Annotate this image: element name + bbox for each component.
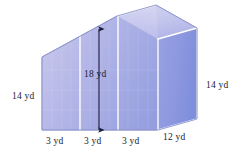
label-depth: 12 yd [163, 132, 185, 142]
house-prism-diagram [0, 0, 248, 157]
label-base-segment-2: 3 yd [84, 136, 101, 146]
right-side-face [158, 28, 197, 130]
label-base-segment-1: 3 yd [46, 136, 63, 146]
label-interior-height: 18 yd [84, 69, 106, 79]
label-left-height: 14 yd [12, 91, 34, 101]
label-base-segment-3: 3 yd [122, 136, 139, 146]
label-right-height: 14 yd [206, 80, 228, 90]
